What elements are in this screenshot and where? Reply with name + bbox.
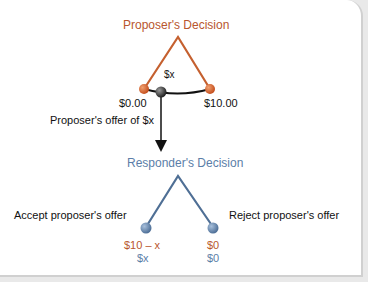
accept-responder-payoff: $x [137,252,149,264]
accept-node-icon [141,223,152,234]
reject-node-icon [208,223,219,234]
offer-label: Proposer's offer of $x [50,114,154,126]
reject-responder-payoff: $0 [207,252,219,264]
responder-title: Responder's Decision [127,156,243,170]
offer-marker-label: $x [164,69,175,80]
reject-proposer-payoff: $0 [207,239,219,251]
proposer-left-node-icon [139,84,149,94]
responder-tree [141,176,219,234]
game-tree-graphic [0,0,368,282]
offer-node-icon [156,87,167,98]
proposer-right-node-icon [205,84,215,94]
proposer-tree [139,37,215,146]
accept-proposer-payoff: $10 – x [124,239,160,251]
reject-label: Reject proposer's offer [229,209,339,221]
proposer-min-value: $0.00 [119,97,147,109]
accept-label: Accept proposer's offer [14,209,127,221]
proposer-max-value: $10.00 [204,97,238,109]
proposer-title: Proposer's Decision [123,18,229,32]
